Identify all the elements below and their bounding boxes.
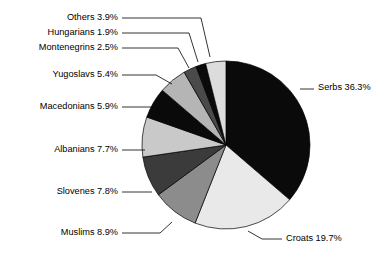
pie-chart-figure: Serbs 36.3%Croats 19.7%Muslims 8.9%Slove… xyxy=(0,0,390,259)
leader-line-yugoslavs xyxy=(122,75,172,84)
leader-line-others xyxy=(122,18,210,57)
slice-label-albanians: Albanians 7.7% xyxy=(54,144,118,154)
slice-label-yugoslavs: Yugoslavs 5.4% xyxy=(53,69,118,79)
pie-chart-canvas: Serbs 36.3%Croats 19.7%Muslims 8.9%Slove… xyxy=(0,0,390,259)
slice-label-macedonians: Macedonians 5.9% xyxy=(40,101,118,111)
leader-line-montenegrins xyxy=(122,48,189,68)
slice-label-hungarians: Hungarians 1.9% xyxy=(48,27,118,37)
leader-line-hungarians xyxy=(122,33,198,62)
leader-line-muslims xyxy=(122,222,172,233)
slice-label-croats: Croats 19.7% xyxy=(286,233,342,243)
slice-label-muslims: Muslims 8.9% xyxy=(61,227,118,237)
pie-slices-group xyxy=(142,61,310,229)
slice-label-slovenes: Slovenes 7.8% xyxy=(57,186,118,196)
leader-line-croats xyxy=(248,231,282,239)
slice-label-montenegrins: Montenegrins 2.5% xyxy=(39,42,118,52)
slice-label-others: Others 3.9% xyxy=(67,12,118,22)
slice-label-serbs: Serbs 36.3% xyxy=(318,82,371,92)
